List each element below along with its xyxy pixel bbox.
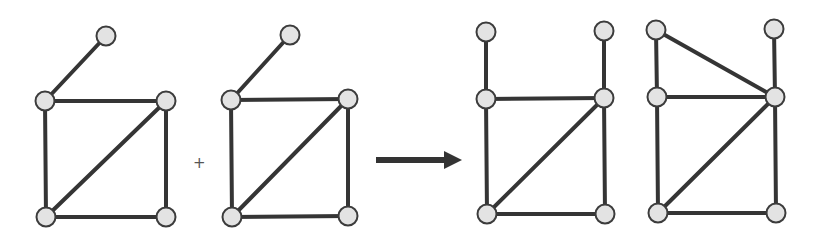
graph-node — [339, 90, 358, 109]
graph-edge — [231, 99, 348, 100]
result-graph-2 — [647, 20, 786, 223]
graph-edge — [231, 100, 232, 217]
graph-node — [222, 91, 241, 110]
graph-edge — [231, 35, 290, 100]
graph-node — [477, 90, 496, 109]
graph-edge — [656, 30, 775, 97]
input-graph-2 — [222, 26, 358, 227]
input-graph-1 — [36, 27, 176, 227]
graph-node — [97, 27, 116, 46]
graph-node — [649, 204, 668, 223]
graph-edge — [486, 98, 604, 99]
graph-node — [477, 23, 496, 42]
graph-node — [767, 204, 786, 223]
graph-node — [765, 20, 784, 39]
graph-node — [157, 208, 176, 227]
graph-edge — [46, 101, 166, 217]
graph-combination-diagram — [0, 0, 816, 244]
graph-node — [596, 205, 615, 224]
graph-node — [37, 208, 56, 227]
graph-node — [648, 88, 667, 107]
graph-node — [281, 26, 300, 45]
graph-node — [157, 92, 176, 111]
graph-edge — [775, 97, 776, 213]
graph-node — [36, 92, 55, 111]
graph-node — [223, 208, 242, 227]
graph-node — [339, 207, 358, 226]
result-graph-1 — [477, 22, 615, 224]
graph-edge — [45, 101, 46, 217]
graph-node — [478, 205, 497, 224]
graph-node — [647, 21, 666, 40]
graph-edge — [232, 216, 348, 217]
graph-node — [766, 88, 785, 107]
plus-operator: + — [193, 154, 206, 172]
graph-edge — [657, 97, 658, 213]
graph-node — [595, 22, 614, 41]
graph-node — [595, 89, 614, 108]
graph-edge — [45, 36, 106, 101]
graph-edge — [658, 97, 775, 213]
arrow-icon — [376, 151, 462, 169]
graph-edge — [487, 98, 604, 214]
graph-edge — [604, 98, 605, 214]
graph-edge — [486, 99, 487, 214]
graph-edge — [232, 99, 348, 217]
graphs-layer — [36, 20, 786, 227]
